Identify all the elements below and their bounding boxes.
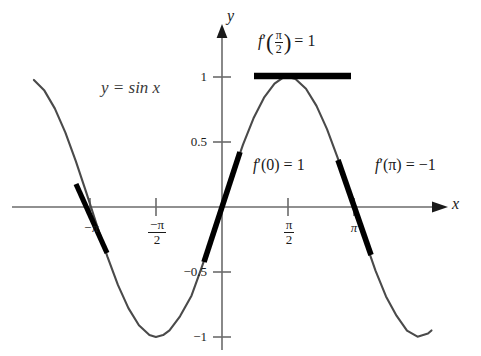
tangent-at-zero-label: f′(0) = 1 <box>253 157 305 173</box>
y-tick-label-neg-half: −0.5 <box>173 265 207 278</box>
x-tick-label-pi: π <box>345 221 363 234</box>
tangent-at-pi-body: (π) = −1 <box>383 156 436 173</box>
neg-half-pi-fraction: −π 2 <box>148 218 166 246</box>
curve-equation-label: y = sin x <box>101 79 160 96</box>
fraction-denominator: 2 <box>148 233 166 247</box>
fraction-numerator: π <box>275 29 283 43</box>
half-pi-fraction: π 2 <box>275 29 283 55</box>
tangent-at-pi-label: f′(π) = −1 <box>375 157 436 173</box>
fraction-denominator: 2 <box>284 233 295 247</box>
x-tick-label-half-pi: π 2 <box>278 218 300 246</box>
fraction-denominator: 2 <box>275 43 283 56</box>
y-tick-label-neg-one: −1 <box>187 330 207 343</box>
open-paren: ( <box>266 30 274 55</box>
y-tick-label-half: 0.5 <box>179 135 207 148</box>
plot-canvas <box>0 0 481 356</box>
y-tick-label-one: 1 <box>193 70 207 83</box>
tangent-at-half-pi-label: f′( π 2 )= 1 <box>258 29 315 55</box>
equals-one: = 1 <box>294 32 315 49</box>
tangent-at-neg-pi <box>76 184 107 253</box>
sine-derivative-figure: y x y = sin x f′( π 2 )= 1 f′(0) = 1 f′(… <box>0 0 481 356</box>
tangent-segments <box>76 76 371 262</box>
tangent-at-zero-body: (0) = 1 <box>261 156 305 173</box>
x-tick-label-neg-half-pi: −π 2 <box>145 218 169 246</box>
fraction-numerator: −π <box>148 218 166 233</box>
half-pi-fraction: π 2 <box>284 218 295 246</box>
x-tick-label-neg-pi: −π <box>79 221 103 234</box>
x-axis <box>12 202 448 213</box>
y-axis-label: y <box>227 8 234 24</box>
close-paren: ) <box>284 30 292 55</box>
x-axis-label: x <box>452 196 459 212</box>
fraction-numerator: π <box>284 218 295 233</box>
